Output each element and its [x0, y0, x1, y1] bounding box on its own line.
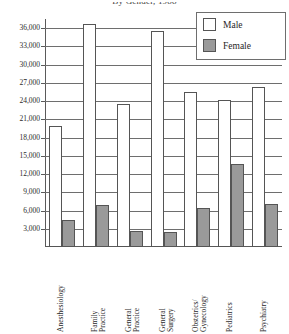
y-axis-tick [41, 156, 45, 157]
y-axis-tick [41, 138, 45, 139]
chart-container: By Gender, 1988 3,0006,0009,00012,00015,… [0, 0, 289, 334]
y-axis-tick-label: 15,000 [0, 152, 40, 160]
gridline [45, 65, 282, 66]
y-axis-tick-label: 30,000 [0, 61, 40, 69]
y-axis-tick-label: 33,000 [0, 42, 40, 50]
gridline [45, 138, 282, 139]
y-axis-tick [41, 101, 45, 102]
bar-male-1 [83, 24, 96, 247]
y-axis-tick [41, 192, 45, 193]
y-axis-tick [41, 211, 45, 212]
y-axis-tick-label: 21,000 [0, 115, 40, 123]
x-axis-label-4: Obstetrics/ Gynecology [192, 250, 208, 332]
gridline [45, 101, 282, 102]
bar-female-5 [231, 164, 244, 247]
y-axis-tick [41, 119, 45, 120]
x-axis-label-6: Psychiatry [260, 250, 268, 332]
bar-male-0 [49, 126, 62, 247]
bar-male-2 [117, 104, 130, 247]
bar-female-1 [96, 205, 109, 247]
bar-male-4 [184, 92, 197, 247]
gridline [45, 156, 282, 157]
legend: Male Female [196, 12, 286, 60]
bar-female-3 [164, 232, 177, 247]
x-axis-label-2: General Practice [125, 250, 141, 332]
female-swatch-icon [203, 39, 216, 52]
y-axis-tick-label: 36,000 [0, 24, 40, 32]
y-axis-tick [41, 28, 45, 29]
x-axis-label-1: Family Practice [91, 250, 107, 332]
legend-item-male: Male [203, 18, 243, 31]
gridline [45, 192, 282, 193]
legend-label-female: Female [223, 41, 251, 51]
x-axis-label-3: General Surgery [159, 250, 175, 332]
gridline [45, 83, 282, 84]
x-axis-label-5: Pediatrics [226, 250, 234, 332]
y-axis-tick-label: 9,000 [0, 188, 40, 196]
y-axis-tick-label: 27,000 [0, 79, 40, 87]
bar-female-0 [62, 220, 75, 247]
bar-female-4 [197, 208, 210, 247]
legend-label-male: Male [223, 20, 243, 30]
legend-item-female: Female [203, 39, 251, 52]
gridline [45, 119, 282, 120]
y-axis-tick [41, 83, 45, 84]
y-axis-tick-label: 6,000 [0, 207, 40, 215]
y-axis-tick-label: 12,000 [0, 170, 40, 178]
gridline [45, 211, 282, 212]
male-swatch-icon [203, 18, 216, 31]
chart-title: By Gender, 1988 [0, 0, 289, 6]
gridline [45, 174, 282, 175]
x-axis-label-0: Anesthesiology [57, 250, 65, 332]
y-axis-tick-label: 24,000 [0, 97, 40, 105]
bar-male-5 [218, 100, 231, 247]
y-axis-tick [41, 65, 45, 66]
bar-female-6 [265, 204, 278, 247]
bar-female-2 [130, 231, 143, 247]
y-axis-tick [41, 229, 45, 230]
bar-male-6 [252, 87, 265, 248]
y-axis-tick-label: 3,000 [0, 225, 40, 233]
gridline [45, 229, 282, 230]
y-axis-tick [41, 46, 45, 47]
y-axis-tick-label: 18,000 [0, 134, 40, 142]
bar-male-3 [151, 31, 164, 247]
y-axis-tick [41, 174, 45, 175]
